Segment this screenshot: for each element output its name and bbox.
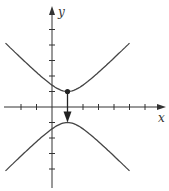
y-axis-label: y: [57, 5, 65, 19]
y-axis-arrow-icon: [49, 6, 55, 15]
lower-branch: [6, 123, 130, 171]
x-axis-arrow-icon: [157, 104, 166, 110]
hyperbola-plot: x y: [0, 0, 169, 191]
axes: [4, 6, 166, 188]
x-axis-label: x: [158, 111, 165, 125]
arrow-head-icon: [64, 112, 72, 123]
upper-branch: [6, 43, 130, 91]
annotations: [64, 89, 72, 123]
